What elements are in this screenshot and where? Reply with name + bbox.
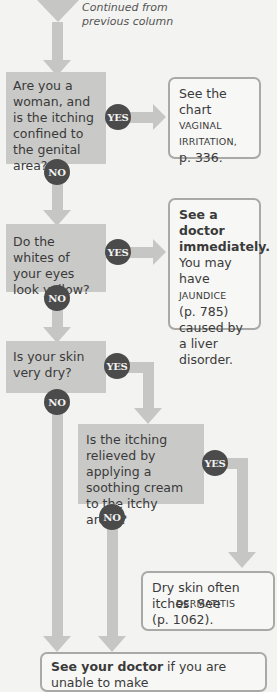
arrowhead [153,239,166,265]
yes-badge: YES [105,239,131,265]
cross-reference-link[interactable]: VAGINAL IRRITATION, [179,118,250,150]
no-badge: NO [44,159,70,185]
yes-connector [128,247,156,258]
no-connector [52,393,63,643]
arrowhead [134,408,162,424]
question-box-1: Are you a woman, and is the itching conf… [6,72,106,164]
question-box-2: Do the whites of your eyes look yellow? [6,224,106,292]
answer-box-dermatitis: Dry skin often itches. See DERMATITIS (p… [141,571,275,631]
yes-badge: YES [202,450,228,476]
no-badge: NO [44,389,70,415]
question-box-3: Is your skin very dry? [6,341,106,393]
arrowhead [153,104,166,130]
no-badge: NO [44,285,70,311]
arrowhead [228,552,256,568]
connector [52,22,63,64]
question-box-4: Is the itching relieved by applying a so… [78,424,204,504]
cross-reference-link[interactable]: DERMATITIS [176,596,264,612]
yes-badge: YES [105,104,131,130]
answer-box-jaundice: See a doctor immediately. You may have J… [168,198,261,330]
continuation-arrowhead [37,0,79,22]
arrowhead [98,636,126,652]
arrowhead [43,636,71,652]
yes-badge: YES [104,353,130,379]
no-badge: NO [99,504,125,530]
answer-box-vaginal-irritation: See the chart VAGINAL IRRITATION, p. 336… [168,77,261,159]
final-advice-box: See your doctor if you are unable to mak… [40,652,267,692]
cross-reference-link[interactable]: JAUNDICE [179,290,227,301]
yes-connector [143,362,154,414]
continued-note: Continued from previous column [82,1,173,29]
yes-connector [237,458,248,558]
yes-connector [128,112,156,123]
